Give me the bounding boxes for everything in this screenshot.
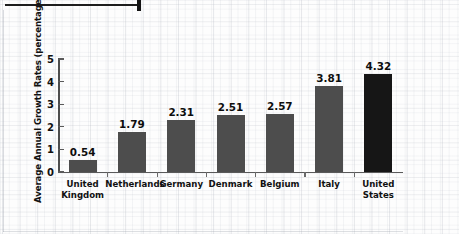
y-tick-label-0: 0	[32, 167, 54, 178]
bar-italy	[315, 86, 343, 172]
bar-value-label-netherlands: 1.79	[108, 118, 156, 130]
category-label-line: United	[56, 179, 109, 190]
y-tick-3	[58, 104, 64, 105]
x-tick-separator	[206, 172, 207, 177]
y-tick-label-slot: 5	[30, 59, 54, 60]
y-tick-label-5: 5	[32, 54, 54, 65]
x-tick-separator	[107, 172, 108, 177]
y-tick-label-slot: 2	[30, 127, 54, 128]
bar-value-label-italy: 3.81	[305, 72, 353, 84]
y-tick-label-1: 1	[32, 144, 54, 155]
category-label-line: Netherlands	[105, 179, 158, 190]
y-tick-0	[58, 171, 64, 172]
y-tick-label-slot: 4	[30, 82, 54, 83]
y-tick-4	[58, 81, 64, 82]
category-label-germany: Germany	[155, 179, 208, 190]
plot-area: Average Annual Growth Rates (percentage)…	[0, 0, 459, 234]
x-tick-separator	[354, 172, 355, 177]
category-label-line: Denmark	[204, 179, 257, 190]
bar-value-label-united-kingdom: 0.54	[59, 146, 107, 158]
bar-belgium	[266, 114, 294, 172]
bar-value-label-belgium: 2.57	[256, 100, 304, 112]
x-axis-line	[58, 172, 403, 173]
category-label-line: United	[352, 179, 405, 190]
y-tick-5	[58, 58, 64, 59]
category-label-line: Kingdom	[56, 190, 109, 201]
bar-germany	[167, 120, 195, 172]
y-tick-2	[58, 126, 64, 127]
category-label-line: Germany	[155, 179, 208, 190]
x-tick-separator	[157, 172, 158, 177]
bar-value-label-united-states: 4.32	[354, 60, 402, 72]
category-label-united-states: UnitedStates	[352, 179, 405, 201]
bar-value-label-germany: 2.31	[157, 106, 205, 118]
category-label-belgium: Belgium	[253, 179, 306, 190]
y-tick-label-2: 2	[32, 121, 54, 132]
x-tick-separator	[255, 172, 256, 177]
y-tick-label-slot: 0	[30, 172, 54, 173]
bar-value-label-denmark: 2.51	[207, 101, 255, 113]
bar-netherlands	[118, 132, 146, 172]
category-label-denmark: Denmark	[204, 179, 257, 190]
category-label-line: Belgium	[253, 179, 306, 190]
x-tick-separator	[304, 172, 305, 177]
category-label-line: Italy	[302, 179, 355, 190]
category-label-netherlands: Netherlands	[105, 179, 158, 190]
y-tick-label-slot: 3	[30, 104, 54, 105]
category-label-italy: Italy	[302, 179, 355, 190]
y-tick-label-3: 3	[32, 99, 54, 110]
chart-figure: Average Annual Growth Rates (percentage)…	[0, 0, 459, 234]
y-tick-label-slot: 1	[30, 149, 54, 150]
y-tick-label-4: 4	[32, 76, 54, 87]
category-label-united-kingdom: UnitedKingdom	[56, 179, 109, 201]
bar-united-kingdom	[69, 160, 97, 172]
category-label-line: States	[352, 190, 405, 201]
bar-united-states	[364, 74, 392, 172]
bar-denmark	[217, 115, 245, 172]
